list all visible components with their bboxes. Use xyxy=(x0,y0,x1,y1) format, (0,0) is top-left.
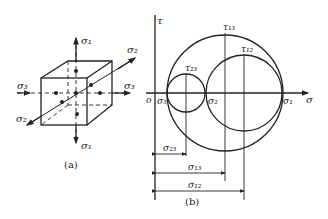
point-sigma2: σ₂ xyxy=(208,96,218,106)
figure-canvas: σ₁ σ₁ σ₂ σ₂ σ₃ σ₃ (a) τ σ o σ₃ σ₂ σ₁ τ₂₃… xyxy=(0,0,328,219)
cube-top-right-edge xyxy=(87,61,112,78)
tau-axis-label: τ xyxy=(157,15,163,26)
caption-b: (b) xyxy=(185,196,199,207)
label-tau23: τ₂₃ xyxy=(185,63,198,73)
point-sigma3: σ₃ xyxy=(157,96,167,106)
cube-face-dots xyxy=(54,69,102,116)
label-sigma2-bottom: σ₂ xyxy=(16,113,27,124)
label-sigma12: σ₁₂ xyxy=(188,180,202,190)
caption-a: (a) xyxy=(64,159,78,170)
point-sigma1: σ₁ xyxy=(283,96,293,106)
label-tau12: τ₁₂ xyxy=(241,44,254,54)
origin-label: o xyxy=(146,95,152,105)
sigma2-down-arrow xyxy=(27,117,40,125)
sigma-axis-label: σ xyxy=(306,94,314,105)
label-sigma13: σ₁₃ xyxy=(188,162,202,172)
label-sigma3-right: σ₃ xyxy=(124,80,135,91)
mohr-circle-figure xyxy=(146,15,308,200)
label-sigma1-bottom: σ₁ xyxy=(81,140,92,151)
stress-cube-figure xyxy=(17,38,135,143)
label-sigma1-top: σ₁ xyxy=(81,35,92,46)
label-sigma2-top: σ₂ xyxy=(127,44,138,55)
label-sigma23: σ₂₃ xyxy=(163,143,177,153)
cube-hidden-edges xyxy=(17,45,125,140)
label-sigma3-left: σ₃ xyxy=(17,80,28,91)
label-tau13: τ₁₃ xyxy=(223,22,236,32)
sigma2-up-arrow xyxy=(118,58,135,69)
